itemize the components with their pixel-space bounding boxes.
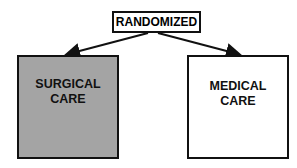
medical-label-line1: MEDICAL	[189, 79, 287, 94]
medical-label-line2: CARE	[189, 94, 287, 109]
surgical-care-node: SURGICAL CARE	[17, 55, 119, 159]
medical-care-node: MEDICAL CARE	[187, 55, 289, 159]
arrow-to-surgical	[68, 33, 148, 54]
randomized-label: RANDOMIZED	[116, 15, 197, 29]
diagram-canvas: RANDOMIZED SURGICAL CARE MEDICAL CARE	[0, 0, 297, 168]
surgical-label-line1: SURGICAL	[19, 77, 117, 92]
arrow-to-medical	[158, 33, 238, 54]
randomized-node: RANDOMIZED	[112, 11, 201, 33]
surgical-label-line2: CARE	[19, 92, 117, 107]
